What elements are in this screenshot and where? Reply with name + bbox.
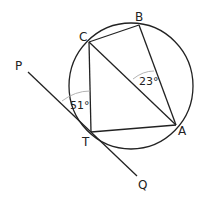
- segment-ca: [89, 42, 176, 125]
- angle-label-23: 23°: [139, 75, 159, 88]
- point-label-a: A: [178, 124, 187, 138]
- point-label-p: P: [15, 59, 22, 73]
- segment-ct: [89, 42, 91, 132]
- circle: [69, 23, 193, 149]
- point-label-q: Q: [138, 178, 147, 192]
- angle-label-51: 51°: [70, 99, 90, 112]
- point-label-b: B: [135, 10, 143, 24]
- point-label-t: T: [81, 135, 90, 149]
- point-label-c: C: [79, 30, 87, 44]
- segment-ta: [91, 125, 176, 132]
- tangent-line-pq: [28, 72, 137, 176]
- circle-diagram: 23° 51° B C A T P Q: [0, 0, 201, 199]
